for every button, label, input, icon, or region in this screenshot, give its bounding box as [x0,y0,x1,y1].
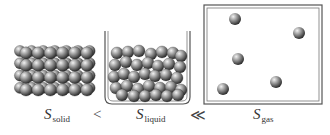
label-s-solid: Ssolid [44,106,70,124]
less-than-operator: < [93,106,101,123]
label-s-gas: Sgas [253,106,274,124]
solid-lattice [14,45,95,96]
label-s-liquid: Sliquid [136,106,166,124]
liquid-beaker [105,31,190,104]
much-less-than-operator: ≪ [190,106,206,124]
gas-container [204,5,322,104]
